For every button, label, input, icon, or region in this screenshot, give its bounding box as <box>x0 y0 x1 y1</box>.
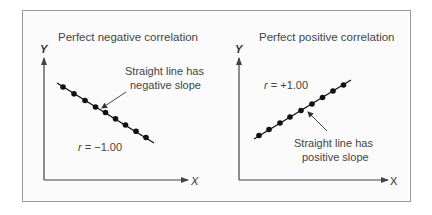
data-points <box>60 84 149 140</box>
data-point <box>60 84 66 90</box>
correlation-diagram: Perfect negative correlation Y X Straigh… <box>0 0 432 215</box>
annotation-line1: Straight line has <box>294 137 373 149</box>
x-axis-label: X <box>190 175 199 187</box>
data-point <box>266 127 272 133</box>
data-point <box>256 133 262 139</box>
panel-title: Perfect positive correlation <box>259 31 395 43</box>
data-point <box>341 82 347 88</box>
y-axis-label: Y <box>40 43 49 55</box>
annotation-arrow <box>308 112 327 131</box>
panel-negative-correlation: Perfect negative correlation Y X Straigh… <box>40 31 204 187</box>
annotation-line2: positive slope <box>302 151 369 163</box>
data-point <box>123 122 129 128</box>
data-point <box>71 91 77 97</box>
data-point <box>298 108 304 114</box>
annotation-arrow <box>102 92 126 108</box>
annotation-line2: negative slope <box>130 79 201 91</box>
r-value-label: r = +1.00 <box>264 79 308 91</box>
panel-title: Perfect negative correlation <box>58 31 198 43</box>
x-axis-label: X <box>390 175 398 187</box>
data-point <box>103 110 109 116</box>
data-point <box>330 88 336 94</box>
data-point <box>93 104 99 110</box>
data-point <box>133 129 139 135</box>
data-point <box>287 114 293 120</box>
data-point <box>320 95 326 101</box>
panel-positive-correlation: Perfect positive correlation Y X Straigh… <box>235 31 398 187</box>
data-point <box>113 116 119 122</box>
data-point <box>277 120 283 126</box>
r-value-label: r = −1.00 <box>78 141 122 153</box>
data-point <box>143 135 149 141</box>
annotation-line1: Straight line has <box>125 65 204 77</box>
y-axis-label: Y <box>235 43 244 55</box>
data-point <box>309 101 315 107</box>
data-point <box>82 98 88 104</box>
